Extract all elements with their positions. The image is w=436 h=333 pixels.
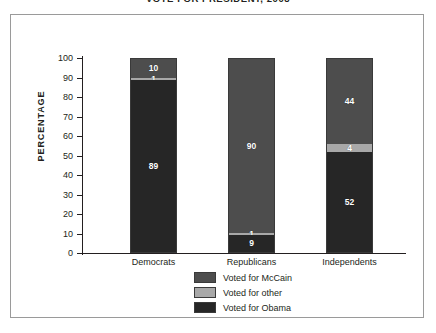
chart-legend: Voted for McCainVoted for otherVoted for…: [194, 271, 292, 314]
bar-segment-obama[interactable]: 52: [327, 152, 372, 252]
legend-item[interactable]: Voted for Obama: [194, 301, 292, 314]
y-tick-mark: [77, 253, 83, 254]
y-axis-title: PERCENTAGE: [36, 66, 46, 186]
y-tick-mark: [77, 195, 83, 196]
y-tick-label: 70: [49, 113, 73, 122]
x-tick-label: Republicans: [197, 257, 307, 267]
legend-label: Voted for Obama: [223, 303, 291, 313]
x-tick-label: Independents: [295, 257, 405, 267]
x-tick-label: Democrats: [99, 257, 209, 267]
y-tick-label: 20: [49, 210, 73, 219]
segment-value-label: 90: [247, 142, 256, 151]
y-tick-mark: [77, 234, 83, 235]
x-axis-line: [82, 253, 406, 254]
legend-swatch: [194, 272, 216, 283]
y-tick-label: 40: [49, 171, 73, 180]
bar-segment-other[interactable]: 4: [327, 144, 372, 152]
y-tick-mark: [77, 97, 83, 98]
y-tick-mark: [77, 136, 83, 137]
bar-segment-mccain[interactable]: 44: [327, 59, 372, 144]
legend-item[interactable]: Voted for McCain: [194, 271, 292, 284]
bar-independents[interactable]: 44452: [326, 58, 373, 253]
y-tick-label: 90: [49, 74, 73, 83]
y-tick-label: 100: [49, 54, 73, 63]
bar-republicans[interactable]: 9019: [228, 58, 275, 253]
chart-title: VOTE FOR PRESIDENT, 2008: [0, 0, 436, 4]
y-tick-mark: [77, 78, 83, 79]
y-tick-mark: [77, 214, 83, 215]
legend-label: Voted for other: [223, 288, 282, 298]
segment-value-label: 10: [149, 64, 158, 73]
segment-value-label: 52: [345, 198, 354, 207]
legend-label: Voted for McCain: [223, 273, 292, 283]
y-tick-mark: [77, 175, 83, 176]
segment-value-label: 44: [345, 97, 354, 106]
bar-segment-obama[interactable]: 9: [229, 235, 274, 252]
bar-democrats[interactable]: 10189: [130, 58, 177, 253]
y-tick-label: 30: [49, 191, 73, 200]
legend-swatch: [194, 287, 216, 298]
bar-segment-obama[interactable]: 89: [131, 80, 176, 252]
y-axis-tick-labels: 1009080706050403020100: [49, 15, 73, 315]
legend-swatch: [194, 302, 216, 313]
y-tick-mark: [77, 117, 83, 118]
y-tick-mark: [77, 156, 83, 157]
y-tick-label: 10: [49, 230, 73, 239]
segment-value-label: 9: [249, 239, 254, 248]
legend-item[interactable]: Voted for other: [194, 286, 292, 299]
figure-frame: PERCENTAGE 1009080706050403020100 101899…: [10, 14, 424, 318]
y-tick-label: 50: [49, 152, 73, 161]
y-tick-mark: [77, 58, 83, 59]
y-tick-label: 80: [49, 93, 73, 102]
y-tick-label: 0: [49, 249, 73, 258]
segment-value-label: 89: [149, 162, 158, 171]
y-tick-label: 60: [49, 132, 73, 141]
bar-segment-mccain[interactable]: 90: [229, 59, 274, 233]
